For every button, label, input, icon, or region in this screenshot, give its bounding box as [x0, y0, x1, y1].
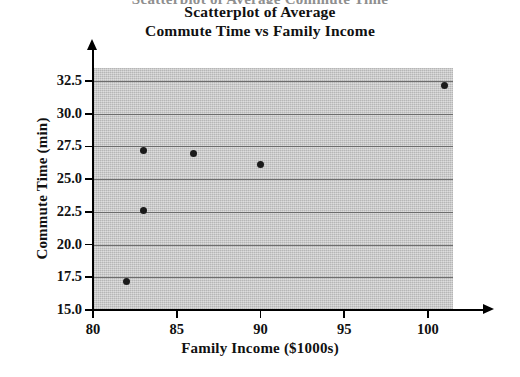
x-tick-90	[260, 310, 262, 318]
y-tick-label: 22.5	[22, 204, 82, 219]
gridline-y-17.5	[93, 277, 453, 278]
x-axis-line	[92, 309, 485, 311]
x-tick-label-wrap: 90	[230, 320, 290, 338]
y-tick-label: 27.5	[22, 138, 82, 153]
x-tick-100	[427, 310, 429, 318]
x-tick-85	[176, 310, 178, 318]
x-axis-arrow-icon	[483, 304, 494, 314]
plot-background-texture	[93, 68, 453, 310]
x-tick-label-wrap: 100	[398, 320, 458, 338]
x-tick-80	[92, 310, 94, 318]
gridline-y-32.5	[93, 81, 453, 82]
plot-area	[93, 68, 453, 310]
x-tick-label: 80	[86, 321, 101, 337]
y-tick-20.0	[85, 244, 93, 246]
data-point	[190, 150, 197, 157]
x-tick-label: 100	[417, 321, 439, 337]
y-tick-32.5	[85, 80, 93, 82]
y-tick-label: 30.0	[22, 106, 82, 121]
y-axis-title: Commute Time (min)	[34, 69, 51, 309]
y-tick-label: 20.0	[22, 237, 82, 252]
data-point	[140, 147, 147, 154]
x-axis-title: Family Income ($1000s)	[0, 340, 520, 357]
x-tick-label-wrap: 95	[314, 320, 374, 338]
gridline-y-25.0	[93, 179, 453, 180]
chart-title-line-1: Scatterplot of Average	[0, 2, 520, 21]
data-point	[441, 82, 448, 89]
y-tick-22.5	[85, 211, 93, 213]
y-tick-25.0	[85, 178, 93, 180]
chart-title: Scatterplot of AverageCommute Time vs Fa…	[0, 2, 520, 40]
data-point	[123, 278, 130, 285]
x-tick-label-wrap: 80	[63, 320, 123, 338]
data-point	[257, 161, 264, 168]
y-tick-label: 17.5	[22, 269, 82, 284]
x-tick-95	[343, 310, 345, 318]
y-axis-arrow-icon	[87, 39, 97, 50]
y-tick-17.5	[85, 276, 93, 278]
y-tick-label: 15.0	[22, 302, 82, 317]
y-tick-label: 32.5	[22, 73, 82, 88]
x-tick-label: 95	[337, 321, 352, 337]
data-point	[140, 207, 147, 214]
x-tick-label-wrap: 85	[147, 320, 207, 338]
gridline-y-20.0	[93, 245, 453, 246]
gridline-y-30.0	[93, 114, 453, 115]
y-tick-label: 25.0	[22, 171, 82, 186]
y-tick-27.5	[85, 146, 93, 148]
x-tick-label: 90	[253, 321, 268, 337]
gridline-y-27.5	[93, 146, 453, 147]
gridline-y-22.5	[93, 212, 453, 213]
y-tick-30.0	[85, 113, 93, 115]
scatterplot-figure: Scatterplot of Average Commute Time Scat…	[0, 0, 520, 377]
x-tick-label: 85	[169, 321, 184, 337]
chart-title-line-2: Commute Time vs Family Income	[0, 21, 520, 40]
